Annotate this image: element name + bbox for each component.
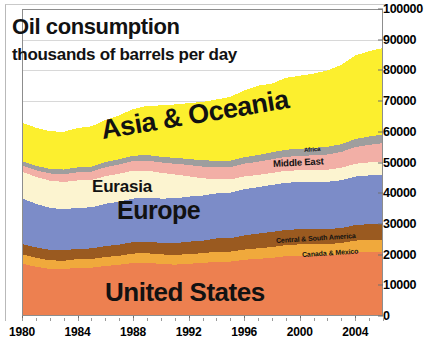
x-minor-tick-mark: [230, 318, 231, 321]
x-tick-label: 2004: [342, 325, 368, 339]
x-minor-tick-mark: [286, 318, 287, 321]
x-tick-label: 1988: [120, 325, 146, 339]
x-minor-tick-mark: [133, 318, 134, 321]
x-minor-tick-mark: [105, 318, 106, 321]
x-minor-tick-mark: [203, 318, 204, 321]
y-axis: 0100002000030000400005000060000700008000…: [383, 0, 441, 347]
x-minor-tick-mark: [272, 318, 273, 321]
y-tick-label: 50000: [383, 156, 416, 170]
x-minor-tick-mark: [314, 318, 315, 321]
series-label-united-states: United States: [105, 277, 265, 308]
chart-subtitle: thousands of barrels per day: [12, 45, 237, 65]
x-minor-tick-mark: [78, 318, 79, 321]
x-minor-tick-mark: [36, 318, 37, 321]
x-minor-tick-mark: [91, 318, 92, 321]
chart-title: Oil consumption: [12, 14, 180, 40]
x-tick-label: 1984: [65, 325, 91, 339]
x-minor-tick-mark: [216, 318, 217, 321]
series-label-europe: Europe: [117, 196, 200, 225]
y-tick-label: 70000: [383, 94, 416, 108]
x-minor-tick-mark: [189, 318, 190, 321]
chart-figure: Oil consumption thousands of barrels per…: [0, 0, 441, 347]
x-minor-tick-mark: [369, 318, 370, 321]
y-tick-label: 60000: [383, 125, 416, 139]
x-minor-tick-mark: [327, 318, 328, 321]
x-tick-label: 1980: [9, 325, 35, 339]
series-label-eurasia: Eurasia: [92, 177, 152, 197]
x-minor-tick-mark: [22, 318, 23, 321]
series-label-africa: Africa: [304, 146, 321, 153]
x-minor-tick-mark: [300, 318, 301, 321]
y-tick-label: 10000: [383, 278, 416, 292]
x-tick-label: 2000: [287, 325, 313, 339]
x-minor-tick-mark: [119, 318, 120, 321]
x-minor-tick-mark: [341, 318, 342, 321]
x-minor-tick-mark: [64, 318, 65, 321]
x-tick-label: 1996: [231, 325, 257, 339]
y-tick-label: 30000: [383, 217, 416, 231]
x-minor-tick-mark: [258, 318, 259, 321]
x-minor-tick-mark: [244, 318, 245, 321]
x-minor-tick-mark: [383, 318, 384, 321]
x-minor-tick-mark: [147, 318, 148, 321]
x-minor-tick-mark: [161, 318, 162, 321]
y-tick-label: 80000: [383, 63, 416, 77]
y-tick-label: 90000: [383, 33, 416, 47]
y-tick-label: 20000: [383, 248, 416, 262]
x-minor-tick-mark: [175, 318, 176, 321]
y-tick-label: 40000: [383, 186, 416, 200]
y-tick-label: 100000: [383, 2, 423, 16]
x-minor-tick-mark: [355, 318, 356, 321]
x-tick-label: 1992: [176, 325, 202, 339]
x-axis: 1980198419881992199620002004: [0, 321, 441, 347]
x-minor-tick-mark: [50, 318, 51, 321]
